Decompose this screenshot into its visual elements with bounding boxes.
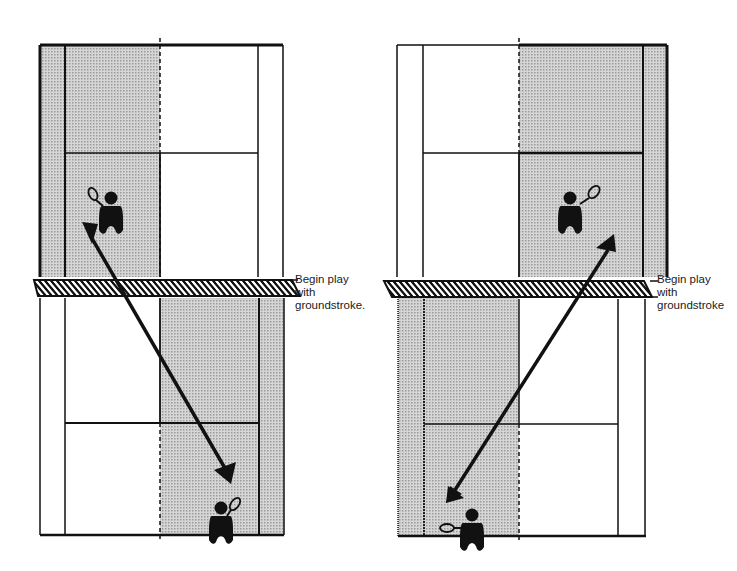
left-caption-line-2: with: [295, 286, 365, 299]
left-net: [34, 280, 300, 296]
right-caption: Begin play with groundstroke: [657, 273, 724, 312]
diagram-canvas: [0, 0, 737, 571]
right-far-shaded-zone: [519, 45, 667, 277]
left-caption: Begin play with groundstroke.: [295, 273, 365, 312]
right-caption-line-2: with: [657, 286, 724, 299]
right-court-panel: [384, 38, 667, 551]
right-caption-line-3: groundstroke: [657, 299, 724, 312]
left-caption-line-1: Begin play: [295, 273, 365, 286]
left-far-shaded-zone: [40, 45, 160, 277]
left-caption-line-3: groundstroke.: [295, 299, 365, 312]
right-net: [384, 281, 658, 297]
right-caption-line-1: Begin play: [657, 273, 724, 286]
left-near-shaded-zone: [160, 298, 284, 536]
left-court-panel: [34, 38, 300, 544]
